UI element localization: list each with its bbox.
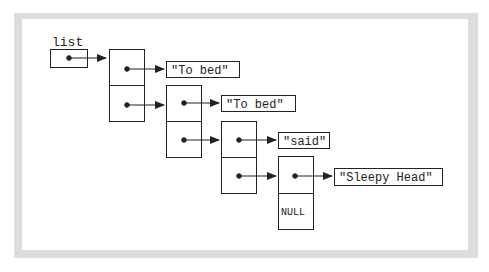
pointer-node4-data	[293, 174, 332, 179]
string-label-4: "Sleepy Head"	[339, 171, 433, 185]
list-node-4	[279, 157, 314, 230]
pointer-node2-data	[182, 101, 219, 106]
pointer-list-to-node1	[67, 56, 106, 61]
string-label-3: "said"	[283, 135, 326, 149]
null-label: NULL	[281, 207, 305, 218]
string-label-1: "To bed"	[171, 64, 229, 78]
pointer-node2-next	[182, 138, 219, 143]
list-node-1	[110, 50, 145, 122]
list-node-3	[222, 122, 257, 194]
linked-list-diagram: list "To bed" "To bed" "said" "Sleepy He…	[0, 0, 489, 272]
list-label: list	[52, 35, 83, 50]
list-node-2	[167, 86, 202, 158]
string-label-2: "To bed"	[226, 98, 284, 112]
